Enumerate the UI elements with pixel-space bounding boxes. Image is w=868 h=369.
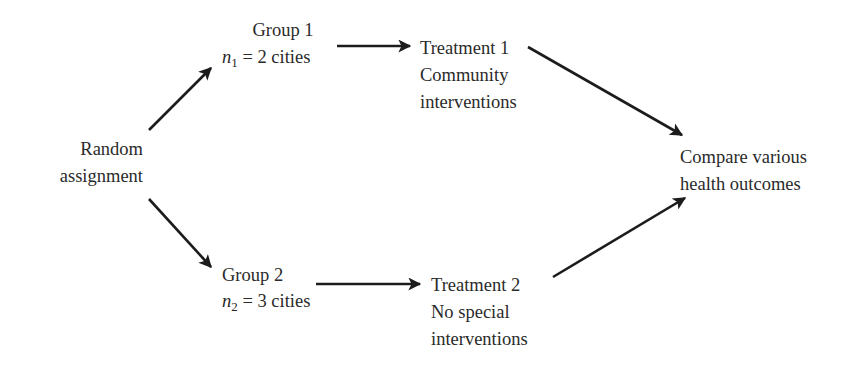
- node-treatment-1: Treatment 1 Community interventions: [420, 38, 517, 112]
- compare-line-1: Compare various: [680, 147, 807, 167]
- node-group-2: Group 2 n2 = 3 cities: [222, 265, 310, 314]
- arrow-random-to-group-1-icon: [149, 68, 211, 130]
- node-group-1: Group 1 n1 = 2 cities: [222, 20, 314, 70]
- group-2-size: n2 = 3 cities: [222, 291, 310, 314]
- arrow-treatment-1-to-compare-icon: [528, 47, 682, 135]
- group-2-title: Group 2: [222, 265, 283, 285]
- node-treatment-2: Treatment 2 No special interventions: [431, 275, 528, 349]
- compare-line-2: health outcomes: [680, 174, 801, 194]
- treatment-1-line-1: Treatment 1: [420, 38, 509, 58]
- group-2-n-var: n: [222, 291, 231, 311]
- arrow-treatment-2-to-compare-icon: [553, 198, 685, 277]
- group-1-n-text: = 2 cities: [238, 47, 311, 67]
- treatment-2-line-1: Treatment 2: [431, 275, 520, 295]
- random-line-1: Random: [80, 139, 143, 159]
- node-random-assignment: Random assignment: [60, 139, 144, 186]
- treatment-1-line-3: interventions: [420, 92, 517, 112]
- group-1-n-var: n: [222, 47, 231, 67]
- arrow-random-to-group-2-icon: [149, 199, 211, 267]
- study-design-diagram: Random assignment Group 1 n1 = 2 cities …: [0, 0, 868, 369]
- treatment-2-line-3: interventions: [431, 329, 528, 349]
- treatment-2-line-2: No special: [431, 302, 510, 322]
- group-1-size: n1 = 2 cities: [222, 47, 310, 70]
- node-compare-outcomes: Compare various health outcomes: [680, 147, 807, 194]
- group-2-n-text: = 3 cities: [238, 291, 311, 311]
- random-line-2: assignment: [60, 166, 144, 186]
- group-1-title: Group 1: [252, 20, 313, 40]
- treatment-1-line-2: Community: [420, 65, 509, 85]
